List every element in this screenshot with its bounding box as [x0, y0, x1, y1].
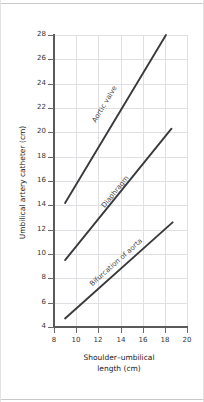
series-line — [65, 35, 166, 203]
y-tick — [48, 108, 54, 109]
x-tick-label: 12 — [88, 337, 108, 344]
x-tick-label: 10 — [66, 337, 86, 344]
y-tick-label: 8 — [28, 274, 46, 281]
y-tick-label: 24 — [28, 80, 46, 87]
plot-area: Aortic valveDiaphragmBifurcation of aort… — [54, 35, 187, 327]
y-axis-title: Umbilical artery catheter (cm) — [18, 103, 27, 263]
x-tick-label: 18 — [155, 337, 175, 344]
y-tick — [48, 59, 54, 60]
x-axis-title: Shoulder–umbilical length (cm) — [44, 352, 194, 374]
y-tick — [48, 35, 54, 36]
x-axis-title-line1: Shoulder–umbilical — [44, 352, 194, 363]
x-tick — [187, 328, 188, 333]
x-axis-title-line2: length (cm) — [44, 363, 194, 374]
y-tick-label: 20 — [28, 128, 46, 135]
y-tick-label: 14 — [28, 201, 46, 208]
y-tick — [48, 84, 54, 85]
y-tick-label: 26 — [28, 55, 46, 62]
y-tick-label: 6 — [28, 299, 46, 306]
y-tick-label: 16 — [28, 177, 46, 184]
x-tick — [54, 328, 55, 333]
x-tick — [143, 328, 144, 333]
x-tick-label: 20 — [177, 337, 197, 344]
y-tick-label: 4 — [28, 323, 46, 330]
y-tick — [48, 303, 54, 304]
y-tick-label: 18 — [28, 153, 46, 160]
y-tick-labels: 46810121416182022242628 — [26, 0, 46, 402]
line-chart: Aortic valveDiaphragmBifurcation of aort… — [0, 0, 204, 402]
x-tick — [98, 328, 99, 333]
y-tick — [48, 181, 54, 182]
y-tick — [48, 278, 54, 279]
figure-page: Aortic valveDiaphragmBifurcation of aort… — [0, 0, 204, 402]
x-tick-label: 14 — [111, 337, 131, 344]
y-tick-label: 22 — [28, 104, 46, 111]
y-tick-label: 28 — [28, 31, 46, 38]
series-line — [65, 222, 173, 318]
x-tick-label: 8 — [44, 337, 64, 344]
y-tick-label: 12 — [28, 226, 46, 233]
x-tick — [165, 328, 166, 333]
y-tick — [48, 157, 54, 158]
y-tick-label: 10 — [28, 250, 46, 257]
y-tick — [48, 230, 54, 231]
x-tick — [76, 328, 77, 333]
y-tick — [48, 132, 54, 133]
y-tick — [48, 254, 54, 255]
x-tick — [121, 328, 122, 333]
x-tick-label: 16 — [133, 337, 153, 344]
gridline-vertical — [187, 35, 188, 327]
y-tick — [48, 205, 54, 206]
